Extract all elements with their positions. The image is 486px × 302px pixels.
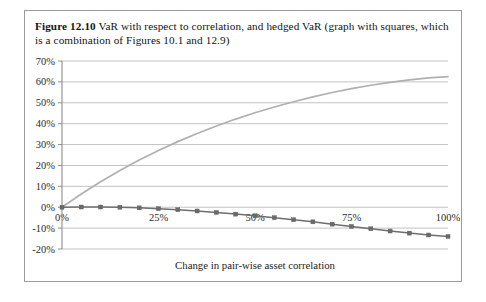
data-point-marker bbox=[157, 207, 161, 211]
x-axis-tick-label: 25% bbox=[149, 212, 169, 223]
data-point-marker bbox=[195, 209, 199, 213]
data-point-marker bbox=[60, 205, 64, 209]
x-axis-tick-label: 75% bbox=[342, 212, 362, 223]
data-point-marker bbox=[176, 208, 180, 212]
y-axis-tick-label: 60% bbox=[36, 76, 56, 87]
y-axis-tick-label: 20% bbox=[36, 160, 56, 171]
chart-y-axis-labels: -20%-10%0%10%20%30%40%50%60%70% bbox=[32, 56, 55, 255]
y-axis-tick-label: -20% bbox=[32, 244, 55, 255]
data-point-marker bbox=[99, 205, 103, 209]
data-point-marker bbox=[234, 212, 238, 216]
series-line-var bbox=[62, 77, 448, 208]
chart-plot-area: -20%-10%0%10%20%30%40%50%60%70% 0%25%50%… bbox=[25, 11, 463, 283]
y-axis-tick-label: 50% bbox=[36, 97, 56, 108]
data-point-marker bbox=[446, 234, 450, 238]
y-axis-tick-label: -10% bbox=[32, 223, 55, 234]
y-axis-tick-label: 30% bbox=[36, 139, 56, 150]
data-point-marker bbox=[79, 205, 83, 209]
chart-x-axis-labels: 0%25%50%75%100% bbox=[55, 212, 461, 223]
data-point-marker bbox=[253, 214, 257, 218]
var-correlation-line-chart: -20%-10%0%10%20%30%40%50%60%70% 0%25%50%… bbox=[25, 11, 463, 283]
y-axis-tick-label: 40% bbox=[36, 118, 56, 129]
data-point-marker bbox=[272, 216, 276, 220]
data-point-marker bbox=[214, 210, 218, 214]
y-axis-tick-label: 0% bbox=[41, 202, 55, 213]
y-axis-tick-label: 10% bbox=[36, 181, 56, 192]
data-point-marker bbox=[330, 222, 334, 226]
figure-panel: Figure 12.10 VaR with respect to correla… bbox=[24, 10, 462, 282]
data-point-marker bbox=[118, 205, 122, 209]
data-point-marker bbox=[388, 229, 392, 233]
data-point-marker bbox=[427, 233, 431, 237]
data-point-marker bbox=[369, 227, 373, 231]
data-point-marker bbox=[407, 231, 411, 235]
x-axis-title: Change in pair-wise asset correlation bbox=[175, 259, 335, 271]
y-axis-tick-label: 70% bbox=[36, 56, 56, 67]
data-point-marker bbox=[137, 206, 141, 210]
data-point-marker bbox=[292, 218, 296, 222]
data-point-marker bbox=[311, 220, 315, 224]
x-axis-tick-label: 100% bbox=[436, 212, 461, 223]
data-point-marker bbox=[350, 224, 354, 228]
